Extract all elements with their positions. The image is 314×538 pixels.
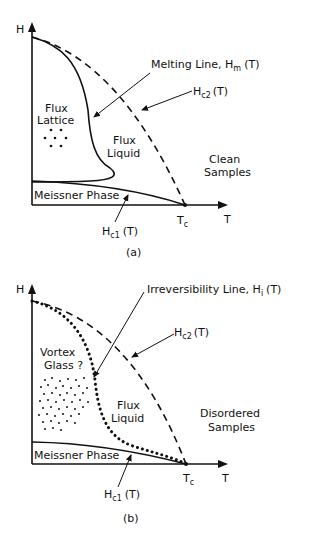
panel-b: H T Tc Vortex Glass ? Flux Liquid Meissn… [16, 283, 281, 525]
region-meissner-a: Meissner Phase [34, 189, 120, 202]
region-vortex-glass-line1: Vortex [40, 346, 76, 359]
hc2-pointer-a [142, 91, 192, 110]
hc1-label-b: Hc1(T) [104, 488, 140, 503]
region-vortex-glass-line2: Glass ? [44, 359, 83, 372]
phase-diagram-figure: H T Tc Flux Lattice Flux Liquid Meissner… [0, 0, 314, 538]
tc-point-a [183, 203, 187, 207]
region-flux-liquid-line2-b: Liquid [111, 412, 144, 425]
sample-type-line1-b: Disordered [200, 407, 260, 420]
hc2-pointer-b [132, 334, 174, 357]
melting-line-label: Melting Line, Hm(T) [151, 58, 259, 73]
t-axis-arrow-b [218, 460, 228, 468]
tc-point-b [184, 462, 188, 466]
flux-lattice-dots [44, 129, 68, 148]
region-flux-liquid-line1-b: Flux [117, 399, 140, 412]
sample-type-line2-a: Samples [204, 166, 251, 179]
region-flux-liquid-line2-a: Liquid [107, 147, 140, 160]
hc2-label-a: Hc2(T) [193, 85, 228, 100]
h-axis-label-b: H [16, 283, 24, 296]
irreversibility-line-label: Irreversibility Line, Hi(T) [147, 283, 281, 298]
hc2-curve-b [32, 301, 186, 464]
hc1-pointer-b [118, 455, 131, 487]
sample-type-line1-a: Clean [209, 153, 240, 166]
irreversibility-line-b [32, 301, 186, 464]
region-meissner-b: Meissner Phase [34, 449, 120, 462]
region-flux-lattice-line2: Lattice [37, 114, 75, 127]
h-axis-arrow-b [28, 284, 36, 294]
panel-a: H T Tc Flux Lattice Flux Liquid Meissner… [16, 22, 259, 259]
h-axis-label-a: H [16, 23, 24, 36]
hc2-label-b: Hc2(T) [174, 326, 209, 341]
vortex-glass-dots [38, 377, 89, 431]
melting-pointer-a [94, 73, 150, 117]
region-flux-liquid-line1-a: Flux [113, 134, 136, 147]
t-axis-label-a: T [223, 213, 231, 226]
caption-b: (b) [123, 512, 139, 525]
tc-label-b: Tc [182, 472, 194, 487]
t-axis-arrow-a [218, 201, 228, 209]
tc-label-a: Tc [176, 214, 188, 229]
t-axis-label-b: T [221, 472, 229, 485]
caption-a: (a) [126, 246, 141, 259]
hc1-label-a: Hc1(T) [102, 225, 138, 240]
h-axis-arrow-a [28, 22, 36, 32]
sample-type-line2-b: Samples [208, 421, 255, 434]
